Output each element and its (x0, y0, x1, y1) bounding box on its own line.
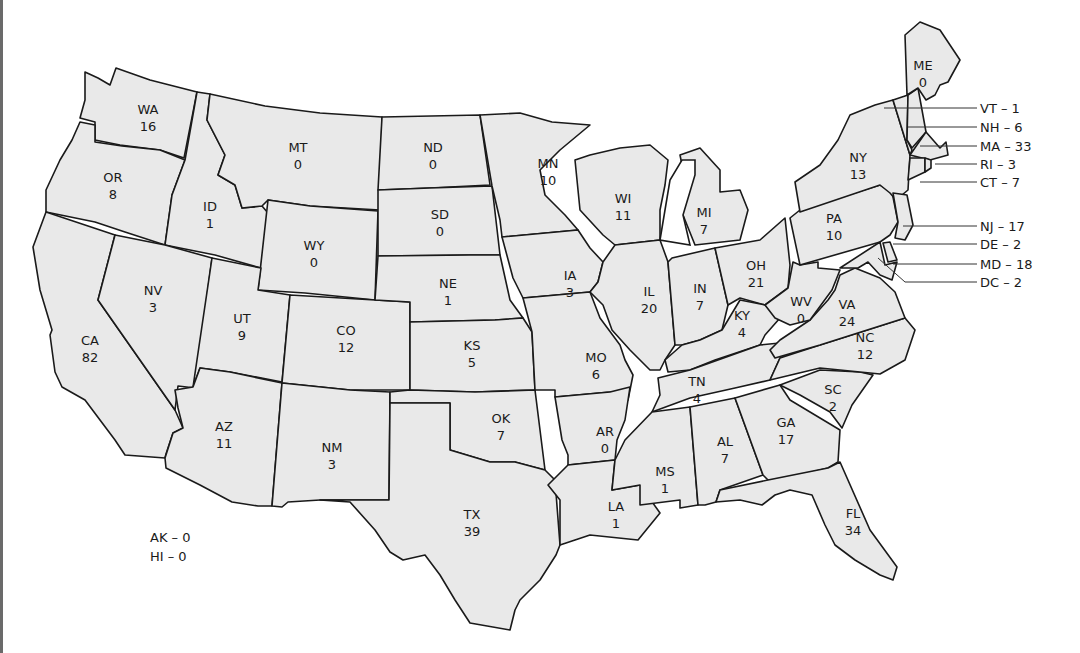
state-label-nd: ND (423, 140, 443, 155)
state-label-sc: SC (824, 382, 841, 397)
state-value-ok: 7 (497, 428, 505, 443)
state-label-mn: MN (538, 156, 559, 171)
state-label-tn: TN (687, 374, 706, 389)
state-label-ca: CA (81, 333, 99, 348)
state-label-ga: GA (777, 415, 796, 430)
state-value-ia: 3 (566, 285, 574, 300)
state-value-ga: 17 (778, 432, 795, 447)
state-value-nc: 12 (857, 347, 874, 362)
state-ct[interactable] (908, 158, 925, 180)
state-label-ut: UT (233, 311, 251, 326)
state-value-ut: 9 (238, 328, 246, 343)
state-label-nm: NM (322, 440, 343, 455)
state-value-mi: 7 (700, 222, 708, 237)
state-value-ar: 0 (601, 441, 609, 456)
state-label-wv: WV (790, 294, 812, 309)
state-label-or: OR (103, 170, 122, 185)
state-label-id: ID (203, 199, 217, 214)
state-value-fl: 34 (845, 523, 862, 538)
state-value-wv: 0 (797, 311, 805, 326)
state-ia[interactable] (502, 230, 603, 298)
state-value-ny: 13 (850, 167, 867, 182)
state-value-ca: 82 (82, 350, 99, 365)
state-label-ne: NE (439, 276, 457, 291)
state-value-in: 7 (696, 298, 704, 313)
state-label-ms: MS (655, 464, 674, 479)
state-label-al: AL (717, 434, 734, 449)
state-label-ok: OK (492, 411, 511, 426)
state-label-co: CO (336, 323, 355, 338)
state-label-nc: NC (856, 330, 875, 345)
state-label-pa: PA (826, 211, 842, 226)
state-value-mo: 6 (592, 367, 600, 382)
state-label-fl: FL (846, 506, 861, 521)
other-ak: AK – 0 (150, 528, 190, 547)
state-value-az: 11 (216, 436, 233, 451)
state-label-ar: AR (596, 424, 614, 439)
state-label-wy: WY (304, 238, 325, 253)
state-value-mn: 10 (540, 173, 557, 188)
state-label-ks: KS (464, 338, 481, 353)
state-value-wa: 16 (140, 119, 157, 134)
state-label-nv: NV (144, 283, 163, 298)
state-label-ny: NY (849, 150, 867, 165)
state-value-sd: 0 (436, 224, 444, 239)
state-value-or: 8 (109, 187, 117, 202)
state-value-nv: 3 (149, 300, 157, 315)
state-value-la: 1 (612, 516, 620, 531)
other-hi: HI – 0 (150, 547, 187, 566)
state-label-me: ME (913, 58, 932, 73)
state-value-me: 0 (919, 75, 927, 90)
state-label-ky: KY (734, 308, 750, 323)
state-value-pa: 10 (826, 228, 843, 243)
state-label-sd: SD (431, 207, 449, 222)
state-value-ky: 4 (738, 325, 746, 340)
state-value-va: 24 (839, 314, 856, 329)
state-value-sc: 2 (829, 399, 837, 414)
state-value-nm: 3 (328, 457, 336, 472)
state-label-mo: MO (585, 350, 606, 365)
state-label-mt: MT (288, 140, 307, 155)
state-value-nd: 0 (429, 157, 437, 172)
state-label-in: IN (693, 281, 707, 296)
state-label-la: LA (608, 499, 625, 514)
state-value-co: 12 (338, 340, 355, 355)
state-label-ia: IA (564, 268, 577, 283)
state-label-oh: OH (746, 258, 766, 273)
state-label-il: IL (643, 284, 655, 299)
state-value-ks: 5 (468, 355, 476, 370)
state-label-va: VA (839, 297, 856, 312)
state-value-oh: 21 (748, 275, 765, 290)
state-label-mi: MI (696, 205, 711, 220)
state-label-wi: WI (615, 191, 632, 206)
state-value-wi: 11 (615, 208, 632, 223)
state-value-wy: 0 (310, 255, 318, 270)
state-label-wa: WA (137, 102, 158, 117)
state-ri[interactable] (925, 158, 931, 172)
state-value-al: 7 (721, 451, 729, 466)
state-value-mt: 0 (294, 157, 302, 172)
state-label-az: AZ (215, 419, 233, 434)
state-value-ms: 1 (661, 481, 669, 496)
state-value-tn: 4 (693, 391, 701, 406)
state-value-tx: 39 (464, 524, 481, 539)
state-label-tx: TX (463, 507, 481, 522)
state-de[interactable] (883, 242, 897, 262)
state-value-il: 20 (641, 301, 658, 316)
state-value-id: 1 (206, 216, 214, 231)
state-value-ne: 1 (444, 293, 452, 308)
